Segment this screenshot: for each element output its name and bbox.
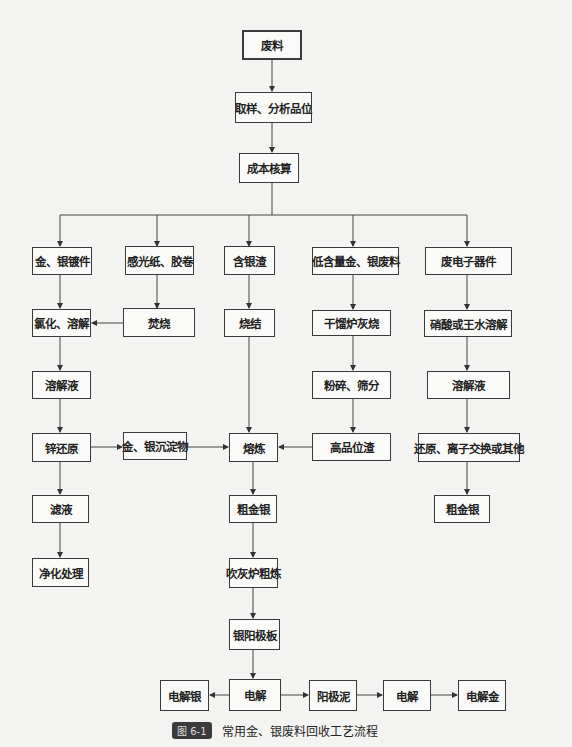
node-label: 氯化、溶解	[34, 315, 89, 331]
node-label: 滤液	[50, 501, 72, 517]
node-anode-slime: 阳极泥	[309, 680, 357, 711]
node-cupellation: 吹灰炉粗炼	[229, 558, 278, 588]
node-silver-anode: 银阳极板	[229, 619, 280, 650]
node-label: 粗金银	[446, 501, 479, 517]
node-label: 金、银沉淀物	[122, 438, 188, 454]
node-crude-bullion-mid: 粗金银	[229, 495, 277, 523]
node-e-waste: 废电子器件	[425, 247, 512, 275]
node-solution-left: 溶解液	[32, 371, 91, 399]
node-zinc-reduction: 锌还原	[32, 433, 91, 462]
node-label: 熔炼	[243, 440, 265, 456]
node-label: 成本核算	[247, 160, 291, 176]
node-label: 银阳极板	[233, 627, 277, 643]
figure-number-badge: 图 6-1	[172, 722, 212, 739]
figure-caption: 图 6-1 常用金、银废料回收工艺流程	[172, 722, 378, 739]
node-label: 感光纸、胶卷	[127, 253, 193, 269]
node-label: 净化处理	[39, 565, 83, 581]
node-purification: 净化处理	[32, 558, 89, 587]
node-electrolytic-silver: 电解银	[160, 680, 209, 711]
node-low-grade-waste: 低含量金、银废料	[312, 247, 399, 275]
node-electrolysis-1: 电解	[229, 679, 281, 711]
node-cost-accounting: 成本核算	[239, 153, 299, 183]
node-sinter: 烧结	[224, 309, 275, 337]
node-retort-ashing: 干馏炉灰烧	[312, 310, 391, 336]
node-label: 烧结	[239, 315, 261, 331]
node-label: 电解金	[466, 688, 499, 704]
node-electrolysis-2: 电解	[383, 680, 431, 711]
node-label: 粗金银	[237, 501, 270, 517]
node-label: 溶解液	[45, 377, 78, 393]
node-label: 金、银镀件	[35, 253, 90, 269]
node-electrolytic-gold: 电解金	[458, 680, 506, 711]
node-label: 锌还原	[45, 440, 78, 456]
node-label: 还原、离子交换或其他	[414, 440, 524, 456]
node-label: 吹灰炉粗炼	[226, 565, 281, 581]
node-label: 干馏炉灰烧	[324, 315, 379, 331]
node-label: 废料	[261, 37, 283, 53]
node-label: 焚烧	[148, 315, 170, 331]
node-crush-sieve: 粉碎、筛分	[312, 371, 391, 399]
node-chlorinate-dissolve: 氯化、溶解	[32, 309, 91, 337]
node-filtrate: 滤液	[32, 495, 89, 523]
node-plated-parts: 金、银镀件	[32, 247, 92, 275]
node-label: 电解银	[168, 688, 201, 704]
node-label: 溶解液	[452, 377, 485, 393]
node-label: 高品位渣	[330, 439, 374, 455]
node-label: 含银渣	[233, 253, 266, 269]
node-precipitate: 金、银沉淀物	[123, 432, 187, 460]
node-silver-slag: 含银渣	[224, 246, 275, 275]
node-label: 低含量金、银废料	[312, 253, 400, 269]
node-label: 电解	[244, 687, 266, 703]
node-label: 取样、分析品位	[235, 100, 312, 116]
node-crude-bullion-right: 粗金银	[434, 495, 490, 523]
node-sampling: 取样、分析品位	[235, 92, 312, 123]
node-reduce-ion-exchange: 还原、离子交换或其他	[418, 433, 520, 462]
node-label: 阳极泥	[317, 688, 350, 704]
node-label: 硝酸或王水溶解	[430, 316, 507, 332]
node-solution-right: 溶解液	[427, 371, 510, 399]
node-smelt: 熔炼	[229, 433, 278, 462]
node-photo-film: 感光纸、胶卷	[125, 246, 194, 275]
node-waste: 废料	[242, 30, 302, 60]
node-incinerate: 焚烧	[123, 308, 195, 337]
figure-caption-text: 常用金、银废料回收工艺流程	[222, 722, 378, 739]
node-label: 粉碎、筛分	[324, 377, 379, 393]
node-label: 废电子器件	[441, 253, 496, 269]
node-high-grade-slag: 高品位渣	[312, 433, 391, 461]
node-acid-dissolve: 硝酸或王水溶解	[424, 310, 512, 337]
node-label: 电解	[396, 688, 418, 704]
